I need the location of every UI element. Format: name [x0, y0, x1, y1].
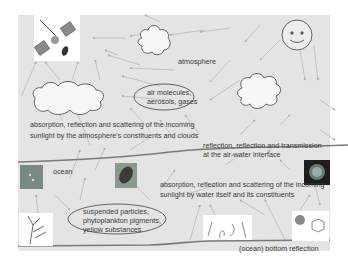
diatom-sketches [203, 215, 252, 240]
ocean-label: ocean [53, 167, 73, 176]
air-constituents-label-2: aerosols, gases [147, 97, 197, 106]
water-constituents-label-1: suspended particles, [83, 207, 149, 216]
water-constituents-label-3: yellow substances [83, 225, 141, 234]
interface-label-1: reflection, reflection and transmission [203, 141, 322, 150]
water-constituents-label-2: phytoplankton pigments, [83, 216, 161, 225]
cloud-icon [238, 74, 281, 109]
molecule-sketch [292, 211, 329, 241]
satellite-icon [34, 15, 80, 61]
seaweed-sketch [19, 213, 53, 246]
cloud-icon [138, 26, 170, 55]
cloud-icon [33, 82, 103, 115]
air-constituents-label-1: air molecules, [147, 88, 191, 97]
underwater-photo [20, 165, 43, 189]
water-process-label-2: sunlight by water itself and its constit… [160, 190, 294, 199]
water-process-label-1: absorption, reflection and scattering of… [160, 180, 325, 189]
bottom-reflection-label: (ocean) bottom reflection [239, 244, 319, 253]
interface-label-2: at the air-water interface [203, 150, 281, 159]
smiley-sun-icon [282, 20, 312, 50]
atmosphere-process-label-1: absorption, reflection and scattering of… [30, 120, 195, 129]
atmosphere-process-label-2: sunlight by the atmosphere's constituent… [30, 131, 198, 140]
atmosphere-label: atmosphere [178, 57, 216, 66]
